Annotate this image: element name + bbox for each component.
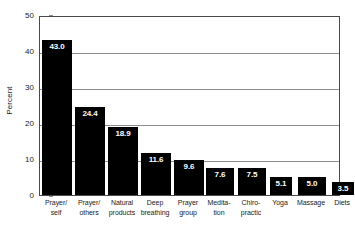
bar-value-label: 18.9 xyxy=(108,129,138,138)
y-tick-label: 10 xyxy=(14,156,34,164)
bar: 24.4 xyxy=(75,107,105,195)
bar-value-label: 3.5 xyxy=(332,184,354,193)
x-tick-label-line: tion xyxy=(201,208,237,218)
x-tick-label-line: practic xyxy=(233,208,269,218)
x-tick-label-line: Diets xyxy=(327,198,355,208)
bar: 18.9 xyxy=(108,127,138,195)
y-tick-label: 50 xyxy=(14,12,34,20)
bar: 5.0 xyxy=(298,177,326,195)
bar-value-label: 7.6 xyxy=(206,170,234,179)
bar-value-label: 9.6 xyxy=(174,162,204,171)
x-tick-label-line: Massage xyxy=(293,198,329,208)
bar: 5.1 xyxy=(270,177,292,195)
y-tick-label: 20 xyxy=(14,120,34,128)
bars-layer: 43.024.418.911.69.67.67.55.15.03.5 xyxy=(40,17,339,195)
bar: 43.0 xyxy=(42,40,72,195)
bar-chart: Percent 01020304050 43.024.418.911.69.67… xyxy=(0,0,355,240)
x-tick-label: Diets xyxy=(327,198,355,208)
bar-value-label: 5.0 xyxy=(298,179,326,188)
x-tick-label: Yoga xyxy=(265,198,295,208)
x-tick-label: Massage xyxy=(293,198,329,208)
bar: 7.5 xyxy=(238,168,266,195)
x-axis-tick-labels: Prayer/selfPrayer/othersNaturalproductsD… xyxy=(39,198,340,238)
y-axis-title-label: Percent xyxy=(5,86,14,114)
bar-value-label: 7.5 xyxy=(238,170,266,179)
x-tick-label-line: Chiro- xyxy=(233,198,269,208)
x-tick-label: Chiro-practic xyxy=(233,198,269,217)
bar-value-label: 24.4 xyxy=(75,109,105,118)
bar: 3.5 xyxy=(332,182,354,195)
x-tick-label-line: Yoga xyxy=(265,198,295,208)
bar-value-label: 11.6 xyxy=(141,155,171,164)
bar: 11.6 xyxy=(141,153,171,195)
bar-value-label: 43.0 xyxy=(42,42,72,51)
y-tick-label: 30 xyxy=(14,84,34,92)
x-tick-label-line: Medita- xyxy=(201,198,237,208)
y-tick-label: 40 xyxy=(14,48,34,56)
x-tick-label: Medita-tion xyxy=(201,198,237,217)
plot-area: 43.024.418.911.69.67.67.55.15.03.5 xyxy=(39,16,340,196)
y-axis-tick-labels: 01020304050 xyxy=(14,16,34,196)
bar: 9.6 xyxy=(174,160,204,195)
y-tick-label: 0 xyxy=(14,192,34,200)
bar-value-label: 5.1 xyxy=(270,179,292,188)
bar: 7.6 xyxy=(206,168,234,195)
